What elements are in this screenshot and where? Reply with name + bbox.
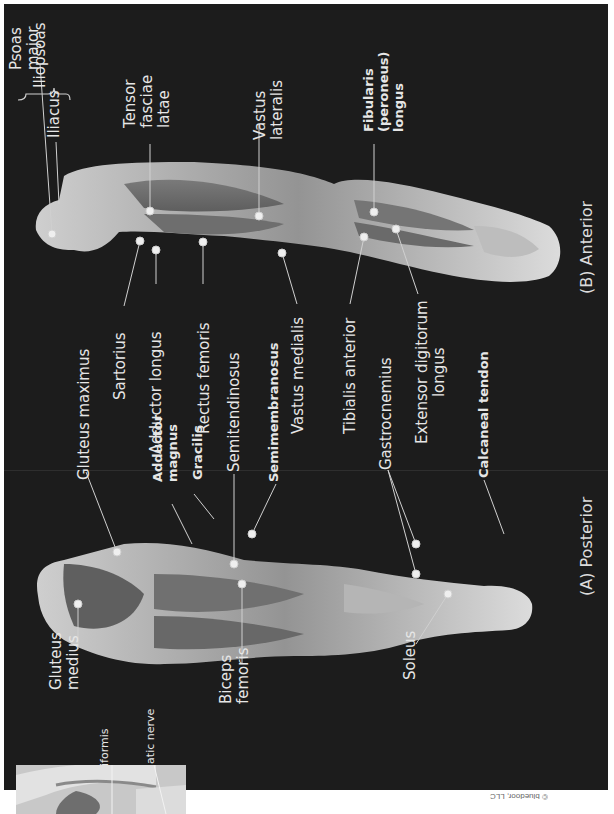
label-gastrocnemius: Gastrocnemius — [378, 357, 395, 470]
posterior-leg — [37, 543, 532, 664]
caption-anterior: (B) Anterior — [578, 201, 595, 294]
anterior-leg — [36, 162, 561, 282]
label-fibularis-longus: Fibularis (peroneus) longus — [361, 52, 406, 132]
label-semitendinosus: Semitendinosus — [226, 352, 243, 472]
label-adductor-magnus: Adductor magnus — [150, 415, 180, 482]
label-biceps-femoris: Biceps femoris — [218, 648, 252, 704]
pelvis-inset-image — [16, 765, 186, 814]
label-iliacus: Iliacus — [46, 90, 63, 138]
label-soleus: Soleus — [402, 631, 419, 680]
label-tibialis-anterior: Tibialis anterior — [342, 318, 359, 434]
label-vastus-lateralis: Vastus lateralis — [252, 80, 286, 140]
label-iliopsoas: Iliopsoas — [32, 23, 49, 88]
label-tensor-fasciae-latae: Tensor fasciae latae — [122, 75, 173, 128]
caption-posterior: (A) Posterior — [578, 497, 595, 596]
label-gluteus-maximus: Gluteus maximus — [76, 349, 93, 480]
label-calcaneal-tendon: Calcaneal tendon — [476, 351, 491, 478]
label-rectus-femoris: Rectus femoris — [196, 322, 213, 434]
label-vastus-medialis: Vastus medialis — [290, 317, 307, 434]
figure-panel: Psoas major Iliacus Iliopsoas Tensor fas… — [4, 4, 608, 790]
copyright-text: © bluedoor, LLC — [490, 792, 548, 801]
label-gracilis: Gracilis — [190, 425, 205, 480]
label-gluteus-medius: Gluteus medius — [48, 632, 82, 690]
label-semimembranosus: Semimembranosus — [266, 343, 281, 483]
label-sartorius: Sartorius — [112, 332, 129, 400]
label-extensor-digitorum-longus: Extensor digitorum longus — [414, 300, 448, 444]
